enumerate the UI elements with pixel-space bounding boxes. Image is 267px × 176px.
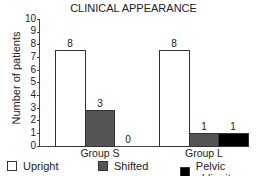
legend-item-upright: Upright [7, 160, 58, 172]
bar-value-label: 8 [159, 38, 189, 49]
y-tick: 5 [22, 76, 36, 87]
tick-mark [37, 44, 40, 45]
y-tick: 7 [22, 51, 36, 62]
bar-value-label: 1 [189, 121, 219, 132]
y-tick: 1 [22, 127, 36, 138]
bar-group-l-pelvic-obliquity [218, 133, 249, 147]
x-category-label: Group S [60, 147, 140, 159]
y-tick: 9 [22, 25, 36, 36]
tick-mark [37, 32, 40, 33]
tick-mark [37, 108, 40, 109]
y-tick: 2 [22, 114, 36, 125]
tick-mark [37, 133, 40, 134]
legend-item-shifted: Shifted [98, 160, 148, 172]
tick-mark [37, 70, 40, 71]
legend-label: Shifted [114, 160, 148, 172]
bar-group-l-shifted [189, 133, 219, 147]
tick-mark [37, 120, 40, 121]
y-tick: 8 [22, 38, 36, 49]
tick-mark [37, 146, 40, 147]
bar-value-label: 8 [55, 38, 85, 49]
legend-swatch [180, 167, 190, 176]
legend-label: Upright [23, 160, 58, 172]
chart-title: CLINICAL APPEARANCE [0, 2, 267, 14]
y-tick: 3 [22, 102, 36, 113]
y-tick: 6 [22, 64, 36, 75]
legend-item-pelvic-obliquity: Pelvic obliquity [180, 160, 267, 176]
y-tick: 0 [22, 140, 36, 151]
tick-mark [37, 19, 40, 20]
bar-value-label: 1 [218, 121, 248, 132]
y-axis [39, 19, 40, 147]
x-category-label: Group L [164, 147, 244, 159]
y-tick: 10 [20, 13, 36, 24]
tick-mark [37, 57, 40, 58]
bar-value-label: 0 [113, 134, 143, 145]
legend-label: Pelvic obliquity [196, 160, 267, 176]
bar-group-s-upright [55, 50, 86, 147]
legend-swatch [98, 161, 108, 171]
bar-value-label: 3 [85, 98, 115, 109]
y-axis-label: Number of patients [10, 28, 22, 128]
y-tick: 4 [22, 89, 36, 100]
tick-mark [37, 95, 40, 96]
bar-group-s-shifted [85, 110, 115, 147]
bar-group-l-upright [159, 50, 190, 147]
legend-swatch [7, 161, 17, 171]
tick-mark [37, 82, 40, 83]
